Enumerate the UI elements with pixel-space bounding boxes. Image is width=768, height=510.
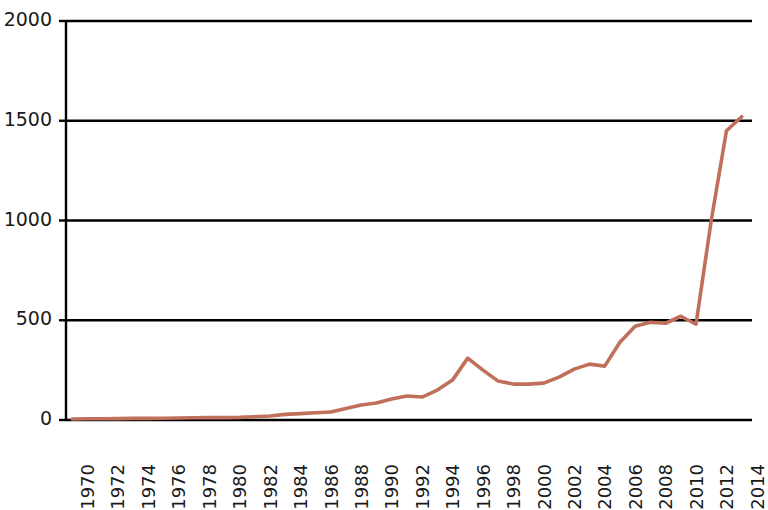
x-axis-tick-label: 2010 [688, 464, 706, 510]
x-axis-tick-label: 2002 [566, 464, 584, 510]
x-axis-tick-label: 2000 [536, 464, 554, 510]
x-axis-tick-label: 2012 [718, 464, 736, 510]
y-axis-tick-label-text: 1500 [0, 110, 52, 129]
x-axis-tick-label: 1996 [475, 464, 493, 510]
x-axis-tick-label: 1998 [505, 464, 523, 510]
y-axis-tick-label-text: 2000 [0, 10, 52, 29]
x-axis-tick-label: 2006 [627, 464, 645, 510]
x-axis-tick-label: 1972 [109, 464, 127, 510]
x-axis-tick-label: 1990 [383, 464, 401, 510]
y-axis-tick-label-text: 1000 [0, 210, 52, 229]
x-axis-tick-label: 1970 [79, 464, 97, 510]
x-axis-tick-label: 1982 [262, 464, 280, 510]
x-axis-tick-label: 2008 [657, 464, 675, 510]
data-series-line [72, 117, 742, 419]
y-axis-tick-label-text: 500 [0, 309, 52, 328]
x-axis-tick-label: 1988 [353, 464, 371, 510]
x-axis-tick-label: 1994 [444, 464, 462, 510]
x-axis-tick-label: 1978 [201, 464, 219, 510]
x-axis-tick-label: 1980 [231, 464, 249, 510]
gridlines [66, 21, 752, 420]
x-axis-tick-label: 1992 [414, 464, 432, 510]
x-axis-tick-label: 1986 [323, 464, 341, 510]
x-axis-tick-label: 1974 [140, 464, 158, 510]
x-axis-tick-label: 2014 [749, 464, 767, 510]
y-axis-tick-label-text: 0 [0, 409, 52, 428]
x-axis-tick-label: 2004 [596, 464, 614, 510]
x-axis-tick-label: 1984 [292, 464, 310, 510]
x-axis-tick-label: 1976 [170, 464, 188, 510]
